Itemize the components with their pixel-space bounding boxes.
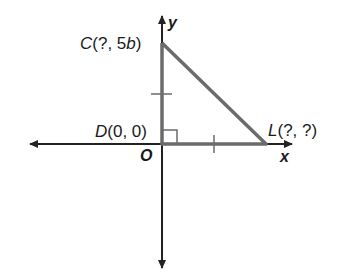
point-d-coords: (0, 0) <box>107 122 147 141</box>
point-c-coords-start: (?, 5 <box>92 34 126 53</box>
point-l-coords: (?, ?) <box>277 121 317 140</box>
x-axis-label: x <box>280 148 289 166</box>
point-c-coords-end: ) <box>136 34 142 53</box>
origin-label: O <box>140 147 152 165</box>
y-axis-label: y <box>168 14 177 32</box>
point-d-label: D(0, 0) <box>95 122 147 142</box>
triangle-cdl <box>162 43 266 144</box>
right-angle-mark <box>162 130 177 144</box>
point-c-label: C(?, 5b) <box>80 34 141 54</box>
point-c-var: b <box>126 34 135 53</box>
point-l-label: L(?, ?) <box>268 121 317 141</box>
point-c-name: C <box>80 34 92 53</box>
point-d-name: D <box>95 122 107 141</box>
